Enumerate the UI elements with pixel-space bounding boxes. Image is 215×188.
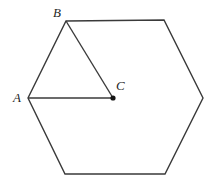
hexagon-outline: [28, 20, 203, 174]
vertex-label-b: B: [53, 6, 61, 19]
vertex-label-c: C: [116, 79, 125, 92]
segment-b-to-c: [66, 21, 113, 98]
vertex-label-a: A: [13, 91, 21, 104]
geometry-figure-canvas: A B C: [0, 0, 215, 188]
center-point-c-dot: [110, 95, 115, 100]
hexagon-figure-svg: [0, 0, 215, 188]
